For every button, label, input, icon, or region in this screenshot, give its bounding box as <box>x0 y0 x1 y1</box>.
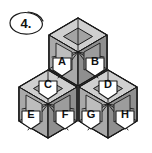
vertex-label-H-text: H <box>121 108 129 120</box>
vertex-label-D-text: D <box>104 78 112 90</box>
figure-number-callout: 4. <box>10 12 43 34</box>
vertex-label-G-text: G <box>87 108 96 120</box>
figure-number-text: 4. <box>21 16 32 31</box>
vertex-label-A-text: A <box>58 55 66 67</box>
figure-canvas: A B C D E F G H <box>0 0 152 153</box>
vertex-label-F-text: F <box>62 108 69 120</box>
isometric-cube-diagram: A B C D E F G H <box>0 0 152 153</box>
vertex-label-E-text: E <box>27 108 34 120</box>
vertex-label-C-text: C <box>44 78 52 90</box>
vertex-label-B-text: B <box>91 55 99 67</box>
